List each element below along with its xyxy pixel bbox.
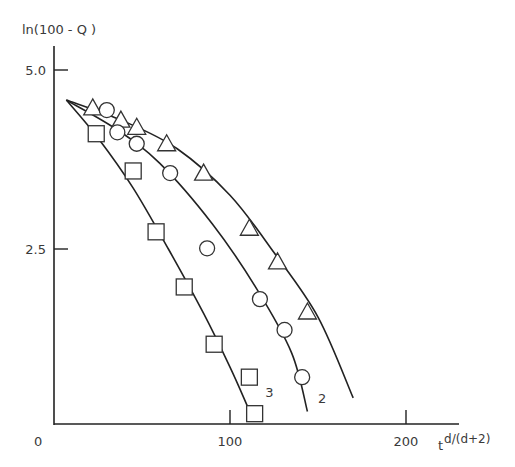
x-axis-label-superscript: d/(d+2) <box>444 432 490 446</box>
square-marker <box>148 224 164 240</box>
circle-marker <box>163 166 178 181</box>
y-tick-label: 5.0 <box>25 63 46 78</box>
square-marker <box>125 163 141 179</box>
y-tick-label: 2.5 <box>25 242 46 257</box>
x-axis-label-base: t <box>438 438 443 453</box>
fit-curve-3 <box>66 100 247 406</box>
x-tick-label: 200 <box>394 434 419 449</box>
triangle-marker <box>128 118 146 134</box>
triangle-marker <box>158 135 176 151</box>
square-marker <box>176 279 192 295</box>
circle-marker <box>129 136 144 151</box>
curve-label: 3 <box>265 385 273 400</box>
circle-marker <box>200 241 215 256</box>
circle-marker <box>99 103 114 118</box>
chart: 01002002.55.0 ln(100 - Q ) td/(d+2) 32 <box>0 0 515 467</box>
curve-label: 2 <box>318 391 326 406</box>
square-marker <box>241 369 257 385</box>
triangle-marker <box>195 164 213 180</box>
square-marker <box>247 406 263 422</box>
fit-curve-2 <box>66 100 307 411</box>
data-markers <box>84 99 317 422</box>
circle-marker <box>110 125 125 140</box>
square-marker <box>206 336 222 352</box>
circle-marker <box>277 322 292 337</box>
x-axis-label: td/(d+2) <box>438 432 490 453</box>
circle-marker <box>295 370 310 385</box>
circle-marker <box>252 292 267 307</box>
x-tick-label: 0 <box>34 434 42 449</box>
triangle-marker <box>269 253 287 269</box>
square-marker <box>88 126 104 142</box>
y-axis-label: ln(100 - Q ) <box>22 22 96 37</box>
x-tick-label: 100 <box>218 434 243 449</box>
curve-labels: 32 <box>265 385 326 406</box>
